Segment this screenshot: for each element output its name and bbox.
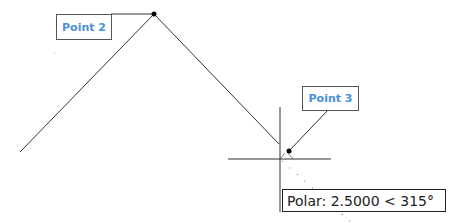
point3-label: Point 3 xyxy=(302,86,359,111)
segment-2 xyxy=(154,14,279,144)
polar-tooltip: Polar: 2.5000 < 315° xyxy=(282,189,446,212)
tracking-marker-right xyxy=(288,153,293,159)
point3-leader xyxy=(289,110,328,151)
point2-label: Point 2 xyxy=(56,14,112,40)
tracking-marker-left xyxy=(280,153,285,159)
point2-dot xyxy=(152,12,157,17)
speck xyxy=(54,52,55,53)
point3-dot xyxy=(287,149,292,154)
